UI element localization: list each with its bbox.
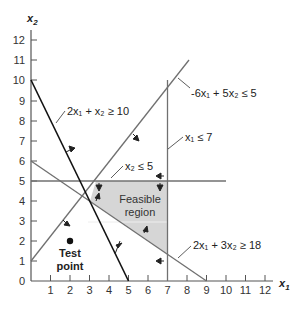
test-point-label-line1: Test	[59, 247, 81, 259]
svg-text:10: 10	[13, 74, 25, 86]
leader-eq4	[111, 166, 123, 178]
svg-text:1: 1	[19, 255, 25, 267]
svg-text:6: 6	[145, 284, 151, 296]
svg-text:9: 9	[19, 95, 25, 107]
svg-text:12: 12	[13, 34, 25, 46]
svg-text:7: 7	[19, 135, 25, 147]
x-axis-title: x1	[278, 277, 290, 292]
leader-eq5	[168, 137, 183, 149]
svg-text:1: 1	[47, 284, 53, 296]
x-ticks	[51, 275, 266, 281]
leader-eq2	[178, 246, 191, 258]
label-neg6x1-5x2-le-5: -6x₁ + 5x₂ ≤ 5	[191, 87, 257, 99]
svg-text:5: 5	[19, 175, 25, 187]
leader-eq1	[56, 111, 65, 123]
svg-text:3: 3	[86, 284, 92, 296]
svg-text:2: 2	[19, 235, 25, 247]
svg-text:5: 5	[125, 284, 131, 296]
test-point-label-line2: point	[57, 260, 84, 272]
x-tick-labels: 1 2 3 4 5 6 7 8 9 10 11 12	[47, 284, 271, 296]
svg-text:10: 10	[220, 284, 232, 296]
label-x1-le-7: x₁ ≤ 7	[185, 131, 212, 143]
svg-text:4: 4	[106, 284, 112, 296]
test-point	[67, 238, 73, 244]
feasible-region-label-line1: Feasible	[119, 193, 161, 205]
svg-text:8: 8	[19, 115, 25, 127]
svg-text:0: 0	[19, 275, 25, 287]
y-axis-title: x2	[26, 12, 38, 27]
svg-text:2: 2	[67, 284, 73, 296]
svg-text:11: 11	[240, 284, 251, 296]
svg-text:7: 7	[164, 284, 170, 296]
svg-text:3: 3	[19, 215, 25, 227]
label-2x1-3x2-ge-18: 2x₁ + 3x₂ ≥ 18	[193, 239, 261, 251]
svg-text:9: 9	[203, 284, 209, 296]
svg-text:4: 4	[19, 195, 25, 207]
linear-programming-chart: 1 2 3 4 5 6 7 8 9 10 11 12 0 1 2 3 4 5 6…	[0, 0, 301, 309]
label-2x1-x2-ge-10: 2x₁ + x₂ ≥ 10	[67, 105, 129, 117]
leader-eq3	[178, 78, 190, 88]
y-tick-labels: 0 1 2 3 4 5 6 7 8 9 10 11 12	[13, 34, 25, 287]
svg-text:6: 6	[19, 155, 25, 167]
svg-text:8: 8	[184, 284, 190, 296]
svg-text:12: 12	[259, 284, 271, 296]
y-ticks	[31, 40, 37, 261]
svg-text:11: 11	[14, 54, 25, 66]
label-x2-le-5: x₂ ≤ 5	[125, 160, 153, 172]
feasible-region-label-line2: region	[125, 206, 156, 218]
